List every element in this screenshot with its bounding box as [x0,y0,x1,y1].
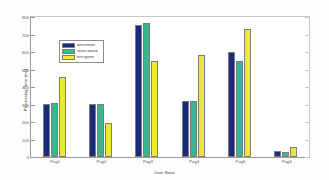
y-axis-tick: 800 [31,17,35,18]
y-axis-tick: 200 [31,122,35,123]
bar [236,61,243,157]
bar [151,61,158,157]
x-axis-tick-label: Pag3 [143,160,153,164]
x-axis-tick-label: Pag2 [97,160,107,164]
x-axis-tick-label: Pag1 [50,160,60,164]
y-axis-tick: 700 [31,35,35,36]
y-axis-tick-mirror [305,87,309,88]
bar [43,104,50,157]
y-axis-tick-label: 800 [22,16,29,20]
bar [244,29,251,157]
y-axis-tick-label: 600 [22,51,29,55]
y-axis-title: Processing Time (ms) [23,69,28,111]
y-axis-tick: 100 [31,140,35,141]
y-axis-tick-mirror [305,52,309,53]
y-axis-tick: 300 [31,105,35,106]
y-axis-tick: 0 [31,157,35,158]
bar [190,101,197,157]
y-axis-tick-mirror [305,122,309,123]
legend-item: Benchmark [62,43,101,48]
legend-swatch-encryption [62,55,75,60]
x-axis-tick-label: Pag6 [282,160,292,164]
chart-legend: Benchmark Naive-Based Encryption [59,40,104,63]
bar [274,151,281,157]
figure-canvas: 0100200300400500600700800Pag1Pag2Pag3Pag… [0,0,329,180]
bar [282,152,289,157]
bar [97,104,104,157]
bar [228,52,235,157]
y-axis-tick-label: 0 [27,156,29,160]
legend-label-naive-based: Naive-Based [77,50,98,54]
legend-item: Naive-Based [62,49,101,54]
legend-label-benchmark: Benchmark [77,44,95,48]
x-axis-title: User Base [154,170,175,175]
bar [143,23,150,157]
bar [182,101,189,157]
y-axis-tick-mirror [305,140,309,141]
y-axis-tick-mirror [305,157,309,158]
y-axis-tick: 500 [31,70,35,71]
bar [89,104,96,157]
y-axis-tick-label: 700 [22,33,29,37]
bar [59,77,66,157]
bar [51,103,58,157]
bar [105,123,112,157]
legend-swatch-benchmark [62,43,75,48]
y-axis-tick-mirror [305,17,309,18]
bar [135,25,142,157]
bar [290,147,297,157]
y-axis-tick-mirror [305,35,309,36]
plot-area: 0100200300400500600700800Pag1Pag2Pag3Pag… [30,16,310,158]
legend-swatch-naive-based [62,49,75,54]
y-axis-tick: 600 [31,52,35,53]
bar [198,55,205,157]
y-axis-tick-mirror [305,70,309,71]
y-axis-tick-label: 100 [22,138,29,142]
y-axis-tick: 400 [31,87,35,88]
y-axis-tick-mirror [305,105,309,106]
x-axis-tick-label: Pag5 [236,160,246,164]
legend-label-encryption: Encryption [77,56,94,60]
x-axis-tick-label: Pag4 [189,160,199,164]
legend-item: Encryption [62,55,101,60]
y-axis-tick-label: 200 [22,121,29,125]
